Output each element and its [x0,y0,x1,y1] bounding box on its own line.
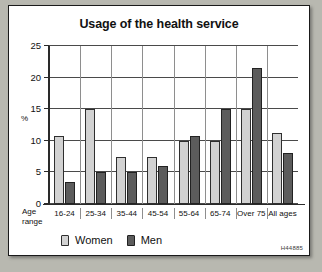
page-title: Usage of the health service [9,17,309,31]
bar-men-55-64 [190,136,200,204]
x-tick-label-35-44: 35-44 [111,207,142,220]
x-tick-label-all-ages: All ages [267,207,298,220]
bar-men-35-44 [127,172,137,204]
age-range-line-2: range [22,217,42,227]
legend-label-men: Men [141,234,162,246]
age-range-line-1: Age [22,207,42,217]
bar-group [236,46,267,204]
bar-men-over-75 [252,68,262,204]
bar-women-25-34 [85,109,95,204]
bar-women-all-ages [272,133,282,204]
bar-men-all-ages [283,153,293,204]
y-tick-label-15: 15 [30,103,41,114]
plot-area: 0510152025 [49,46,298,204]
bar-groups [49,46,298,204]
age-range-label: Age range [22,207,42,226]
bar-group [49,46,80,204]
x-tick-label-45-54: 45-54 [142,207,173,220]
x-tick-label-65-74: 65-74 [205,207,236,220]
y-tick-label-10: 10 [30,134,41,145]
y-tick-label-25: 25 [30,40,41,51]
bar-men-16-24 [65,182,75,204]
x-tick-label-25-34: 25-34 [80,207,111,220]
legend-swatch-women [61,235,69,246]
bar-men-45-54 [158,166,168,204]
bar-group [205,46,236,204]
x-tick-label-16-24: 16-24 [49,207,80,220]
bar-group [80,46,111,204]
legend-item-men: Men [127,234,162,246]
x-axis-tick-labels: 16-2425-3435-4445-5455-6465-74Over 75All… [49,207,298,220]
chart-figure: Usage of the health service % 0510152025… [8,5,310,256]
bar-women-45-54 [147,157,157,204]
legend-label-women: Women [75,234,113,246]
legend-item-women: Women [61,234,113,246]
bar-group [267,46,298,204]
bar-men-65-74 [221,109,231,204]
bar-group [142,46,173,204]
y-tick-label-20: 20 [30,71,41,82]
x-tick-label-over-75: Over 75 [236,207,267,220]
bar-women-35-44 [116,157,126,204]
legend-swatch-men [127,235,135,246]
y-tick-label-5: 5 [36,166,41,177]
chart-legend: WomenMen [61,234,162,246]
bar-men-25-34 [96,172,106,204]
bar-group [174,46,205,204]
reference-code: H44885 [281,245,303,251]
bar-women-over-75 [241,109,251,204]
y-axis-label: % [21,114,28,123]
bar-group [111,46,142,204]
x-tick-label-55-64: 55-64 [174,207,205,220]
bar-women-55-64 [179,141,189,204]
bar-women-16-24 [54,136,64,204]
bar-women-65-74 [210,141,220,204]
